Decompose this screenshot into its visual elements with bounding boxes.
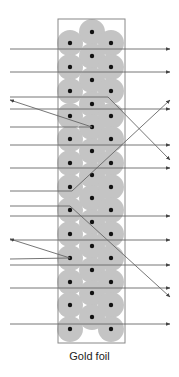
gold-atoms — [57, 19, 124, 342]
nucleus — [68, 65, 72, 69]
gold-atom — [57, 150, 83, 176]
gold-atom — [57, 269, 83, 295]
gold-atom — [57, 197, 83, 223]
nucleus — [109, 185, 113, 189]
gold-atom — [98, 103, 124, 129]
gold-atom — [98, 269, 124, 295]
gold-atom — [57, 126, 83, 152]
nucleus — [68, 327, 72, 331]
gold-atom — [57, 316, 83, 342]
nucleus — [90, 54, 94, 58]
gold-atom — [98, 54, 124, 80]
gold-atom — [98, 174, 124, 200]
nucleus — [90, 102, 94, 106]
gold-atom — [98, 197, 124, 223]
gold-atom — [98, 292, 124, 318]
nucleus — [68, 41, 72, 45]
nucleus — [68, 208, 72, 212]
gold-atom — [98, 30, 124, 56]
gold-atom — [98, 316, 124, 342]
nucleus — [109, 280, 113, 284]
nucleus — [90, 196, 94, 200]
gold-atom — [57, 221, 83, 247]
nucleus — [90, 315, 94, 319]
gold-atom — [98, 245, 124, 271]
nucleus — [90, 30, 94, 34]
gold-atom — [57, 292, 83, 318]
gold-atom — [98, 126, 124, 152]
nucleus — [109, 41, 113, 45]
nucleus — [109, 303, 113, 307]
nucleus — [109, 65, 113, 69]
nucleus — [90, 291, 94, 295]
nucleus — [109, 327, 113, 331]
nucleus — [109, 161, 113, 165]
nucleus — [68, 89, 72, 93]
gold-atom — [57, 78, 83, 104]
nucleus — [109, 256, 113, 260]
nucleus — [90, 220, 94, 224]
gold-atom — [57, 174, 83, 200]
figure-caption: Gold foil — [0, 350, 179, 362]
gold-atom — [57, 30, 83, 56]
nucleus — [68, 161, 72, 165]
nucleus — [109, 232, 113, 236]
nucleus — [109, 137, 113, 141]
nucleus — [68, 114, 72, 118]
nucleus — [68, 137, 72, 141]
gold-atom — [57, 103, 83, 129]
nucleus — [68, 280, 72, 284]
gold-foil-scattering-diagram — [0, 0, 179, 377]
nucleus — [90, 268, 94, 272]
nucleus — [109, 89, 113, 93]
nucleus — [68, 232, 72, 236]
nucleus — [90, 78, 94, 82]
nucleus — [109, 208, 113, 212]
nucleus — [109, 114, 113, 118]
nucleus — [90, 149, 94, 153]
nucleus — [68, 185, 72, 189]
nucleus — [68, 303, 72, 307]
nucleus — [90, 244, 94, 248]
gold-atom — [57, 54, 83, 80]
